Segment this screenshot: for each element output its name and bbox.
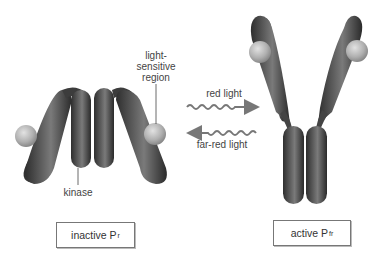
left-chromophore-icon: [15, 125, 37, 147]
active-state-box: active Pfr: [273, 220, 351, 246]
inactive-state-subscript: r: [118, 232, 120, 239]
active-left-chromophore-icon: [249, 41, 271, 63]
inactive-state-box: inactive Pr: [56, 222, 135, 248]
right-chromophore-icon: [144, 123, 166, 145]
inactive-state-label: inactive P: [71, 229, 117, 241]
inactive-phytochrome-figure: [15, 84, 167, 185]
far-red-light-arrow-icon: [188, 131, 256, 135]
active-phytochrome-figure: [249, 16, 368, 204]
kinase-label: kinase: [62, 187, 94, 198]
red-light-label: red light: [194, 88, 254, 99]
far-red-light-label: far-red light: [186, 139, 258, 150]
red-light-arrow-icon: [187, 105, 258, 109]
active-state-subscript: fr: [329, 230, 333, 237]
light-sensitive-region-label: light- sensitive region: [134, 50, 178, 83]
active-right-chromophore-icon: [346, 40, 368, 62]
active-state-label: active P: [291, 227, 328, 239]
